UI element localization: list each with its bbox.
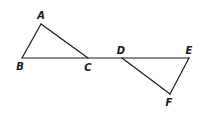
- geometry-diagram: A B C D E F: [0, 0, 201, 113]
- label-a: A: [36, 10, 45, 21]
- segments: [22, 24, 189, 94]
- label-c: C: [84, 62, 92, 73]
- segment-ef: [170, 58, 189, 94]
- segment-df: [122, 58, 170, 94]
- segment-ac: [41, 24, 88, 58]
- label-f: F: [166, 97, 173, 108]
- label-e: E: [186, 45, 193, 56]
- segment-ab: [22, 24, 41, 58]
- label-d: D: [117, 45, 125, 56]
- label-b: B: [16, 61, 24, 72]
